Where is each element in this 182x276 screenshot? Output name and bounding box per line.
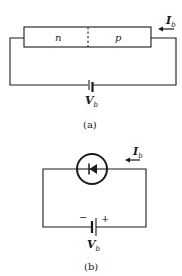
figure-b: Ib − + Vb (b) xyxy=(43,145,146,272)
region-n-label: n xyxy=(55,32,61,43)
voltage-label-a: Vb xyxy=(85,94,99,109)
battery-icon xyxy=(89,80,93,92)
diagram-canvas: n p Vb Ib (a) xyxy=(0,0,182,276)
region-p-label: p xyxy=(115,32,122,43)
caption-a: (a) xyxy=(83,119,97,130)
current-label-b: Ib xyxy=(132,145,143,160)
voltage-label-b: Vb xyxy=(87,238,101,253)
minus-sign: − xyxy=(79,212,87,223)
figure-a: n p Vb Ib (a) xyxy=(10,14,176,130)
right-wire-a xyxy=(93,38,176,85)
current-label-a: Ib xyxy=(165,14,176,29)
caption-b: (b) xyxy=(84,261,98,272)
diode-icon xyxy=(77,154,107,184)
plus-sign: + xyxy=(101,213,109,224)
battery-icon xyxy=(92,218,96,236)
left-wire-a xyxy=(10,38,88,85)
